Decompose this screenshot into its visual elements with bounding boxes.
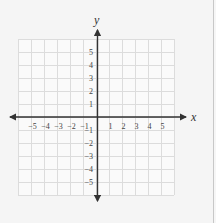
y-tick-label: 1 [89,100,93,109]
figure-frame: x y −5−4−3−2−112345 54321−1−2−3−4−5 [0,0,214,223]
x-tick-label: 3 [135,122,139,131]
y-tick-label: 3 [89,74,93,83]
y-tick-label: −4 [84,165,93,174]
y-tick-label: −3 [84,152,93,161]
y-tick-label: −1 [84,126,93,135]
x-tick-label: 5 [161,122,165,131]
y-tick-label: −5 [84,178,93,187]
x-tick-label: −4 [41,122,50,131]
x-tick-label: −3 [54,122,63,131]
coordinate-plane: x y −5−4−3−2−112345 54321−1−2−3−4−5 [0,0,216,223]
x-tick-label: −2 [67,122,76,131]
x-tick-label: 4 [148,122,152,131]
y-tick-label: 2 [89,87,93,96]
x-tick-label: 2 [122,122,126,131]
x-tick-label: −5 [28,122,37,131]
y-tick-label: 4 [89,61,93,70]
y-tick-label: −2 [84,139,93,148]
x-tick-label: 1 [109,122,113,131]
x-axis-label: x [190,110,197,124]
y-tick-label: 5 [89,48,93,57]
y-axis-label: y [93,13,100,27]
